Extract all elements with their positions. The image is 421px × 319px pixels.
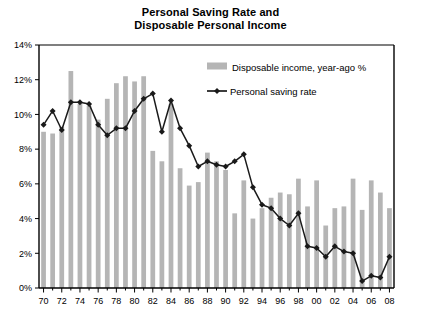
- bar: [278, 193, 283, 288]
- bar: [205, 153, 210, 288]
- bar: [78, 104, 83, 288]
- x-axis-tick-label: 74: [75, 296, 85, 306]
- bar: [187, 186, 192, 288]
- y-axis-tick-label: 6%: [19, 179, 32, 189]
- x-axis-tick-label: 90: [221, 296, 231, 306]
- bar: [41, 132, 46, 288]
- bar: [160, 161, 165, 288]
- bar-series-disposable-income: [41, 71, 392, 288]
- bar: [114, 83, 119, 288]
- x-axis-tick-label: 76: [93, 296, 103, 306]
- data-point-marker: [177, 125, 183, 131]
- legend-label-personal-saving-rate: Personal saving rate: [230, 86, 317, 97]
- bar: [141, 76, 146, 288]
- bar: [351, 179, 356, 288]
- x-axis-tick-label: 80: [130, 296, 140, 306]
- x-axis-tick-label: 94: [257, 296, 267, 306]
- bar: [369, 180, 374, 288]
- y-axis-tick-label: 10%: [14, 110, 32, 120]
- data-point-marker: [159, 129, 165, 135]
- bar: [251, 219, 256, 288]
- bar: [59, 127, 64, 288]
- bar: [232, 213, 237, 288]
- data-point-marker: [195, 164, 201, 170]
- bar: [214, 161, 219, 288]
- y-axis-ticks: 0%2%4%6%8%10%12%14%: [14, 40, 39, 293]
- bar: [223, 170, 228, 288]
- bar: [96, 120, 101, 288]
- data-point-marker: [150, 91, 156, 97]
- legend-marker-personal-saving-rate: [214, 88, 220, 94]
- data-point-marker: [168, 98, 174, 104]
- x-axis-tick-label: 72: [57, 296, 67, 306]
- x-axis-tick-label: 82: [148, 296, 158, 306]
- bar: [387, 208, 392, 288]
- bar: [105, 99, 110, 288]
- y-axis-tick-label: 8%: [19, 144, 32, 154]
- bar: [287, 194, 292, 288]
- bar: [123, 76, 128, 288]
- legend-swatch-disposable-income: [207, 63, 227, 70]
- bar: [150, 151, 155, 288]
- x-axis-tick-label: 86: [184, 296, 194, 306]
- x-axis-tick-label: 06: [366, 296, 376, 306]
- bar: [87, 106, 92, 288]
- data-point-marker: [223, 164, 229, 170]
- x-axis-tick-label: 98: [293, 296, 303, 306]
- bar: [342, 206, 347, 288]
- y-axis-tick-label: 2%: [19, 249, 32, 259]
- bar: [260, 208, 265, 288]
- x-axis-tick-label: 92: [239, 296, 249, 306]
- bar: [196, 182, 201, 288]
- x-axis-tick-label: 70: [39, 296, 49, 306]
- bar: [241, 180, 246, 288]
- chart-plot: 0%2%4%6%8%10%12%14% 70727476788082848688…: [0, 0, 421, 319]
- y-axis-tick-label: 14%: [14, 40, 32, 50]
- bar: [314, 180, 319, 288]
- x-axis-tick-label: 00: [312, 296, 322, 306]
- x-axis-tick-label: 08: [384, 296, 394, 306]
- x-axis-tick-label: 96: [275, 296, 285, 306]
- data-point-marker: [259, 202, 265, 208]
- bar: [169, 104, 174, 288]
- bar: [269, 198, 274, 288]
- x-axis-tick-label: 88: [202, 296, 212, 306]
- data-point-marker: [250, 184, 256, 190]
- y-axis-tick-label: 0%: [19, 283, 32, 293]
- bar: [178, 168, 183, 288]
- bar: [50, 134, 55, 288]
- x-axis-tick-label: 04: [348, 296, 358, 306]
- y-axis-tick-label: 4%: [19, 214, 32, 224]
- legend-label-disposable-income: Disposable income, year-ago %: [232, 62, 367, 73]
- data-point-marker: [186, 143, 192, 149]
- x-axis-tick-label: 78: [111, 296, 121, 306]
- chart-legend: Disposable income, year-ago %Personal sa…: [207, 62, 367, 97]
- x-axis-tick-label: 84: [166, 296, 176, 306]
- x-axis-tick-label: 02: [330, 296, 340, 306]
- y-axis-tick-label: 12%: [14, 75, 32, 85]
- chart-container: Personal Saving Rate and Disposable Pers…: [0, 0, 421, 319]
- x-axis-ticks: 7072747678808284868890929496980002040608: [39, 288, 395, 306]
- bar: [296, 179, 301, 288]
